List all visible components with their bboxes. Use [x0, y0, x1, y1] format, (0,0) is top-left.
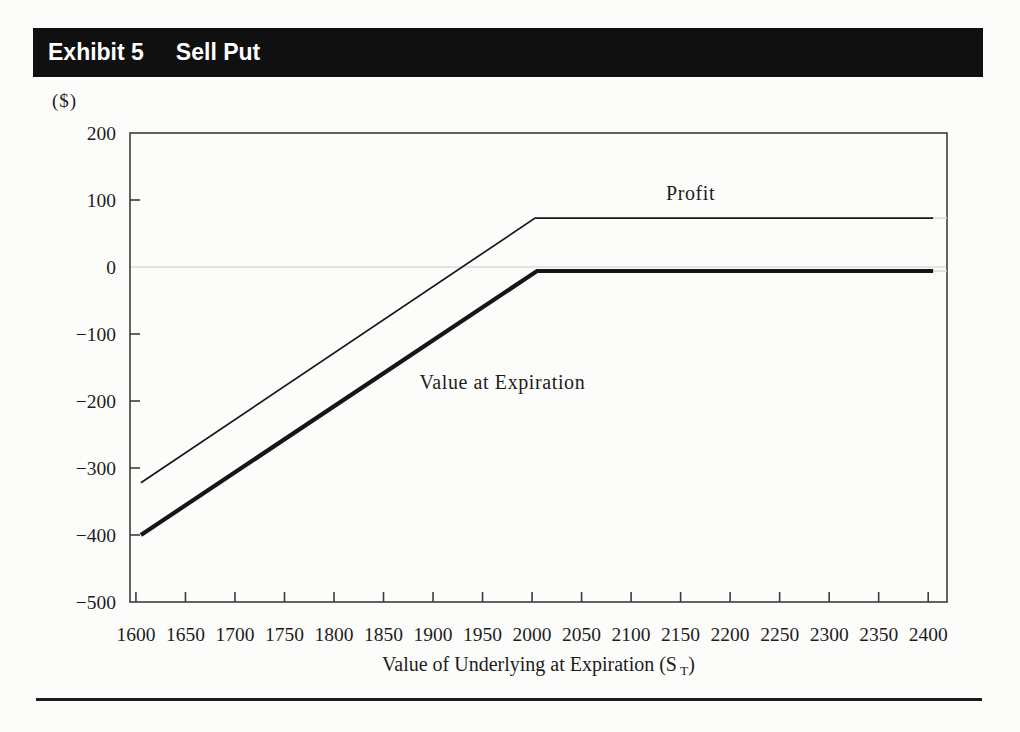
x-tick-label: 2150: [661, 624, 700, 645]
x-tick-label: 1600: [116, 624, 155, 645]
x-tick-label: 2350: [859, 624, 898, 645]
x-tick-label: 2000: [513, 624, 552, 645]
x-axis-title-close-paren: ): [688, 653, 695, 675]
y-tick-label: −300: [76, 458, 116, 479]
y-tick-label: 0: [106, 257, 116, 278]
series-line-profit: [141, 218, 933, 483]
x-tick-label: 1900: [414, 624, 453, 645]
x-tick-label: 1650: [166, 624, 205, 645]
footer-rule: [36, 698, 982, 701]
y-tick-label: −200: [76, 391, 116, 412]
x-tick-label: 2050: [562, 624, 601, 645]
y-tick-label: −100: [76, 324, 116, 345]
x-axis-title-subscript: T: [680, 663, 688, 678]
x-tick-label: 2250: [760, 624, 799, 645]
page: Exhibit 5 Sell Put ($) 2001000−100−200−3…: [0, 0, 1020, 732]
series-label-profit: Profit: [666, 182, 715, 204]
y-tick-label: −500: [76, 592, 116, 613]
x-tick-label: 1850: [364, 624, 403, 645]
y-tick-label: −400: [76, 525, 116, 546]
sell-put-payoff-chart: 2001000−100−200−300−400−5001600165017001…: [0, 0, 1020, 732]
x-tick-label: 2300: [810, 624, 849, 645]
x-tick-label: 1700: [215, 624, 254, 645]
series-label-value-at-expiration: Value at Expiration: [419, 371, 585, 394]
y-tick-label: 200: [87, 123, 116, 144]
x-axis-title-text: Value of Underlying at Expiration (S: [382, 653, 677, 675]
x-tick-label: 2200: [711, 624, 750, 645]
x-tick-label: 1950: [463, 624, 502, 645]
x-axis-title: Value of Underlying at Expiration (ST): [130, 653, 947, 679]
plot-frame: [130, 133, 947, 602]
x-tick-label: 1800: [315, 624, 354, 645]
x-tick-label: 2100: [612, 624, 651, 645]
x-tick-label: 1750: [265, 624, 304, 645]
x-tick-label: 2400: [909, 624, 948, 645]
y-tick-label: 100: [87, 190, 116, 211]
